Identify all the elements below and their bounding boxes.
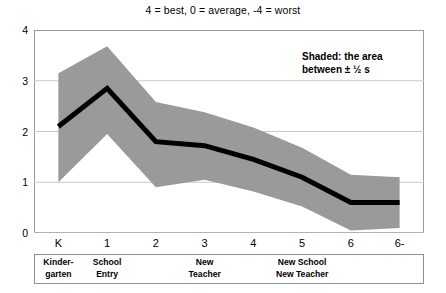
x-tick-label: K — [55, 236, 62, 251]
phase-label: New School New Teacher — [276, 257, 328, 280]
x-axis-tick-labels: K1234566-end — [34, 236, 424, 253]
annotation-line-1: Shaded: the area — [302, 50, 432, 63]
x-tick-label: 1 — [104, 236, 110, 251]
phase-annotation-box: Kinder- gartenSchool EntryNew TeacherNew… — [34, 254, 424, 284]
y-tick-label: 3 — [2, 76, 28, 86]
y-tick-label: 0 — [2, 228, 28, 238]
phase-label: Kinder- garten — [43, 257, 73, 280]
chart-container: 4 = best, 0 = average, -4 = worst 43210 … — [0, 0, 446, 293]
x-tick-label: 5 — [299, 236, 305, 251]
x-tick-label: 2 — [153, 236, 159, 251]
phase-label: School Entry — [93, 257, 122, 280]
annotation-line-2: between ± ½ s — [302, 63, 432, 76]
shaded-area-annotation: Shaded: the area between ± ½ s — [302, 50, 432, 76]
x-tick-label: 3 — [202, 236, 208, 251]
phase-label: New Teacher — [188, 257, 220, 280]
x-tick-label: 6 — [348, 236, 354, 251]
chart-title: 4 = best, 0 = average, -4 = worst — [0, 4, 446, 16]
y-tick-label: 2 — [2, 127, 28, 137]
x-tick-label: 4 — [250, 236, 256, 251]
y-tick-label: 4 — [2, 25, 28, 35]
y-tick-label: 1 — [2, 177, 28, 187]
